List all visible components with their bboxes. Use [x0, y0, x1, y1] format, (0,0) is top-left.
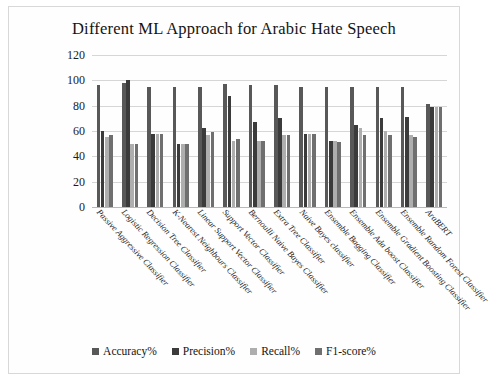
- bar[interactable]: [405, 117, 409, 207]
- bar[interactable]: [173, 87, 177, 207]
- chart-title: Different ML Approach for Arabic Hate Sp…: [9, 19, 459, 39]
- x-axis-tick: Ensemble Gradient Boosting Classifier: [373, 207, 472, 312]
- bar[interactable]: [430, 107, 434, 207]
- bar[interactable]: [223, 84, 227, 207]
- y-axis-tick: 20: [73, 174, 85, 189]
- bar[interactable]: [304, 134, 308, 207]
- bar[interactable]: [177, 144, 181, 207]
- legend-swatch-icon: [315, 348, 322, 355]
- bar[interactable]: [198, 87, 202, 207]
- bar[interactable]: [308, 134, 312, 207]
- bar-group: [92, 55, 117, 207]
- bar-group: [320, 55, 345, 207]
- bar[interactable]: [232, 141, 236, 207]
- bar[interactable]: [413, 137, 417, 207]
- y-axis-tick: 80: [73, 98, 85, 113]
- y-axis-tick: 100: [67, 73, 85, 88]
- bar[interactable]: [135, 144, 139, 207]
- bar[interactable]: [384, 131, 388, 207]
- legend-swatch-icon: [92, 348, 99, 355]
- bar-group: [371, 55, 396, 207]
- bar[interactable]: [439, 107, 443, 207]
- bar[interactable]: [329, 141, 333, 207]
- bar[interactable]: [202, 128, 206, 207]
- bar[interactable]: [350, 87, 354, 207]
- legend-item[interactable]: Recall%: [250, 345, 300, 357]
- bar[interactable]: [337, 142, 341, 207]
- bar[interactable]: [376, 87, 380, 207]
- bar[interactable]: [126, 80, 130, 207]
- bar[interactable]: [122, 83, 126, 207]
- y-axis-tick: 60: [73, 124, 85, 139]
- bar-group: [422, 55, 447, 207]
- bar[interactable]: [409, 135, 413, 207]
- bar[interactable]: [130, 144, 134, 207]
- bar[interactable]: [380, 118, 384, 207]
- legend-item[interactable]: Precision%: [172, 345, 235, 357]
- bar[interactable]: [359, 128, 363, 207]
- bar[interactable]: [354, 125, 358, 207]
- x-axis-tick-labels: Passive Aggressive ClassifierLogistic Re…: [92, 207, 452, 337]
- y-axis-tick: 120: [67, 48, 85, 63]
- bar[interactable]: [253, 122, 257, 207]
- bar[interactable]: [282, 135, 286, 207]
- bar-group: [270, 55, 295, 207]
- legend-label: F1-score%: [326, 345, 376, 357]
- bar[interactable]: [206, 135, 210, 207]
- legend-swatch-icon: [172, 348, 179, 355]
- bar[interactable]: [147, 87, 151, 207]
- legend-label: Accuracy%: [103, 345, 157, 357]
- bar[interactable]: [274, 85, 278, 207]
- bar[interactable]: [388, 135, 392, 207]
- bar[interactable]: [101, 131, 105, 207]
- bar[interactable]: [97, 85, 101, 207]
- bar-group: [346, 55, 371, 207]
- legend-swatch-icon: [250, 348, 257, 355]
- bar-group: [143, 55, 168, 207]
- chart-legend: Accuracy%Precision%Recall%F1-score%: [9, 345, 459, 357]
- y-axis-tick-labels: 020406080100120: [49, 55, 89, 207]
- bar[interactable]: [426, 104, 430, 207]
- bar[interactable]: [257, 141, 261, 207]
- bar[interactable]: [211, 132, 215, 207]
- legend-label: Precision%: [183, 345, 235, 357]
- bar[interactable]: [181, 144, 185, 207]
- bar-group: [168, 55, 193, 207]
- bar-group: [295, 55, 320, 207]
- bar-group: [117, 55, 142, 207]
- bar[interactable]: [333, 141, 337, 207]
- bar[interactable]: [228, 96, 232, 207]
- bar[interactable]: [363, 135, 367, 207]
- bar[interactable]: [109, 135, 113, 207]
- y-axis-tick: 0: [79, 200, 85, 215]
- bars-layer: [92, 55, 447, 207]
- bar[interactable]: [401, 87, 405, 207]
- bar[interactable]: [249, 85, 253, 207]
- bar-group: [244, 55, 269, 207]
- plot-area: [92, 55, 447, 207]
- bar[interactable]: [261, 141, 265, 207]
- bar[interactable]: [160, 134, 164, 207]
- bar[interactable]: [151, 134, 155, 207]
- bar[interactable]: [312, 134, 316, 207]
- bar-group: [396, 55, 421, 207]
- bar[interactable]: [156, 134, 160, 207]
- bar[interactable]: [299, 87, 303, 207]
- legend-item[interactable]: F1-score%: [315, 345, 376, 357]
- bar[interactable]: [105, 137, 109, 207]
- y-axis-tick: 40: [73, 149, 85, 164]
- legend-item[interactable]: Accuracy%: [92, 345, 157, 357]
- bar[interactable]: [236, 139, 240, 207]
- bar[interactable]: [287, 135, 291, 207]
- chart-container: Different ML Approach for Arabic Hate Sp…: [8, 6, 460, 374]
- bar-group: [193, 55, 218, 207]
- bar[interactable]: [185, 144, 189, 207]
- legend-label: Recall%: [261, 345, 300, 357]
- bar[interactable]: [435, 107, 439, 207]
- bar-group: [219, 55, 244, 207]
- bar[interactable]: [325, 87, 329, 207]
- bar[interactable]: [278, 118, 282, 207]
